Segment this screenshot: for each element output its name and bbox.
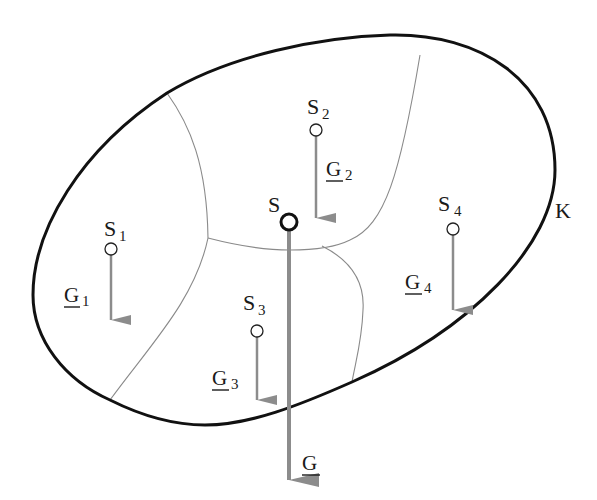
division-line-1-3 — [110, 238, 208, 400]
svg-text:S: S — [104, 216, 116, 241]
label-s4: S 4 — [438, 191, 462, 219]
svg-text:G: G — [405, 270, 420, 294]
label-g3: G 3 — [212, 366, 239, 392]
svg-text:G: G — [302, 451, 317, 475]
point-s1 — [105, 243, 117, 255]
label-g-total: G — [302, 451, 320, 475]
division-line-3-4 — [322, 246, 363, 382]
point-s-total — [281, 214, 297, 230]
svg-text:S: S — [243, 290, 255, 315]
division-line-2-4 — [350, 55, 420, 240]
point-s3 — [251, 325, 263, 337]
svg-text:G: G — [326, 157, 341, 181]
label-s1: S 1 — [104, 216, 127, 244]
svg-text:4: 4 — [424, 280, 432, 296]
label-g4: G 4 — [405, 270, 432, 296]
label-g2: G 2 — [326, 157, 353, 183]
svg-text:2: 2 — [322, 106, 330, 122]
division-lines — [110, 55, 420, 400]
svg-text:S: S — [307, 94, 319, 119]
division-line-1-2 — [167, 93, 208, 238]
svg-text:G: G — [64, 283, 79, 307]
svg-text:1: 1 — [119, 228, 127, 244]
svg-text:4: 4 — [454, 203, 462, 219]
label-g1: G 1 — [64, 283, 90, 309]
label-s2: S 2 — [307, 94, 330, 122]
svg-text:G: G — [212, 366, 227, 390]
point-s2 — [310, 124, 322, 136]
svg-text:3: 3 — [258, 302, 266, 318]
svg-text:1: 1 — [82, 293, 90, 309]
label-s3: S 3 — [243, 290, 266, 318]
center-of-gravity-diagram: K S S 1 S 2 S 3 S 4 G 1 G 2 G 3 G 4 G — [0, 0, 597, 500]
svg-text:3: 3 — [231, 376, 239, 392]
point-s4 — [447, 223, 459, 235]
svg-text:S: S — [438, 191, 450, 216]
svg-text:2: 2 — [345, 167, 353, 183]
division-line-2-3 — [208, 238, 350, 250]
label-s: S — [268, 192, 280, 217]
label-body-k: K — [555, 198, 571, 223]
